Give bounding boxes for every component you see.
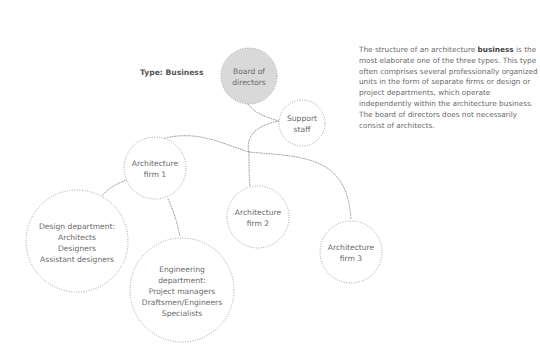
firm2-label-line2: firm 2 [247,219,270,228]
engineering-label-line2: department: [158,276,205,285]
firm1-label-line1: Architecture [132,159,179,168]
org-structure-diagram: Board of directors Support staff Archite… [0,0,540,349]
node-firm-2: Architecture firm 2 [227,186,289,248]
firm1-label-line2: firm 1 [144,170,167,179]
support-label-line1: Support [287,114,317,123]
node-engineering-department: Engineering department: Project managers… [130,238,234,342]
engineering-label-line5: Specialists [162,309,202,318]
firm3-label-line1: Architecture [328,243,375,252]
firm1-circle [124,137,186,199]
edge-firm1-design [102,180,127,196]
edge-firm1-engineering [168,199,180,237]
firm3-label-line2: firm 3 [340,254,363,263]
design-label-line1: Design department: [39,222,115,231]
edge-support-firm2 [249,152,250,186]
design-label-line2: Architects [58,233,96,242]
engineering-label-line1: Engineering [159,265,205,274]
board-label-line1: Board of [233,67,265,76]
firm3-circle [320,221,382,283]
support-circle [279,100,325,146]
node-firm-1: Architecture firm 1 [124,137,186,199]
firm2-circle [227,186,289,248]
firm2-label-line1: Architecture [235,208,282,217]
engineering-label-line3: Project managers [149,287,216,296]
edge-support-firm1 [165,121,279,152]
engineering-label-line4: Draftsmen/Engineers [142,298,222,307]
board-circle [221,48,277,104]
node-board: Board of directors [221,48,277,104]
node-design-department: Design department: Architects Designers … [26,190,128,292]
node-support-staff: Support staff [279,100,325,146]
node-firm-3: Architecture firm 3 [320,221,382,283]
support-label-line2: staff [294,125,312,134]
design-label-line4: Assistant designers [40,255,114,264]
design-label-line3: Designers [58,244,96,253]
board-label-line2: directors [232,78,265,87]
edge-board-support [248,104,279,121]
